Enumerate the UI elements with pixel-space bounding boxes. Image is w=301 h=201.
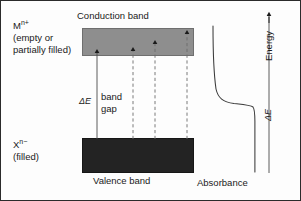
anion-symbol-label: Xn− bbox=[13, 139, 27, 150]
anion-occupancy-line1: (filled) bbox=[13, 151, 39, 162]
cation-symbol: M bbox=[13, 20, 21, 31]
cation-occupancy-line1: (empty or bbox=[13, 32, 53, 43]
band-gap-figure: Conduction band Valence band Mn+ (empty … bbox=[0, 0, 301, 201]
band-gap-label-line1: band bbox=[101, 91, 122, 102]
valence-band-label: Valence band bbox=[93, 175, 150, 186]
cation-symbol-label: Mn+ bbox=[13, 20, 29, 31]
valence-band-rect bbox=[82, 138, 194, 173]
conduction-band-rect bbox=[82, 28, 194, 56]
cation-occupancy-line2: partially filled) bbox=[13, 44, 71, 55]
anion-charge: n− bbox=[19, 138, 27, 145]
absorbance-curve bbox=[213, 26, 255, 172]
cation-charge: n+ bbox=[21, 19, 29, 26]
spectrum-energy-gap-label: ΔE bbox=[263, 109, 273, 121]
energy-axis-label: Energy bbox=[263, 31, 274, 61]
absorbance-axis-label: Absorbance bbox=[197, 177, 248, 188]
conduction-band-label: Conduction band bbox=[77, 10, 149, 21]
band-gap-energy-label: ΔE bbox=[79, 96, 91, 107]
band-gap-label-line2: gap bbox=[101, 103, 117, 114]
